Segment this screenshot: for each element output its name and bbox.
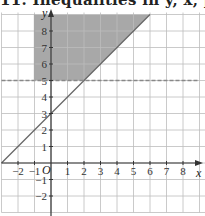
y-tick-label: 3 — [42, 108, 48, 120]
x-tick-label: 1 — [65, 165, 71, 177]
y-tick-label: −2 — [35, 190, 47, 202]
y-tick-label: 4 — [42, 91, 48, 103]
y-tick-label: 1 — [42, 141, 48, 153]
y-tick-label: 8 — [42, 25, 48, 37]
x-tick-label: 8 — [180, 165, 186, 177]
y-tick-label: 2 — [42, 124, 48, 136]
y-axis-label: y — [41, 6, 48, 20]
x-axis-label: x — [195, 166, 202, 180]
y-tick-label: 5 — [42, 75, 48, 87]
origin-label: O — [42, 163, 51, 177]
x-tick-label: 4 — [114, 165, 120, 177]
y-tick-label: 7 — [42, 42, 48, 54]
x-tick-label: 6 — [147, 165, 153, 177]
y-axis-arrow-icon — [48, 9, 54, 17]
x-tick-label: −2 — [12, 165, 24, 177]
x-tick-label: 3 — [98, 165, 104, 177]
inequality-graph: −2−112345678−2−112345678xyO — [0, 0, 205, 216]
y-tick-label: 6 — [42, 58, 48, 70]
x-tick-label: 5 — [131, 165, 137, 177]
x-tick-label: 2 — [81, 165, 87, 177]
x-tick-label: 7 — [164, 165, 170, 177]
